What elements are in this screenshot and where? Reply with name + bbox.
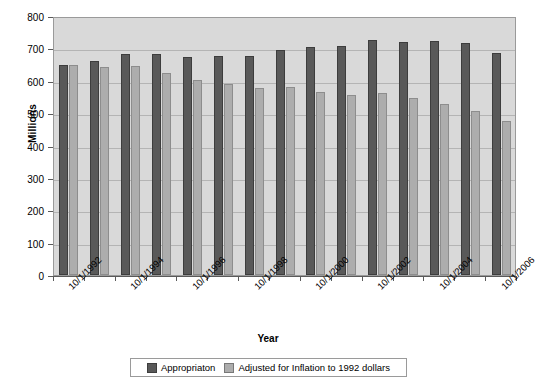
y-axis-tick-label: 800 xyxy=(27,12,44,23)
bar-series-container xyxy=(54,18,515,275)
bar xyxy=(152,54,161,275)
y-axis-tick-label: 400 xyxy=(27,141,44,152)
legend-swatch-icon xyxy=(224,363,234,373)
bar xyxy=(337,46,346,275)
x-axis-tick-mark xyxy=(485,276,486,281)
y-axis-tick-label: 0 xyxy=(38,271,44,282)
bar xyxy=(316,92,325,275)
y-axis-tick-label: 300 xyxy=(27,173,44,184)
bar-chart: Millions 0100200300400500600700800 10/1/… xyxy=(0,0,536,384)
bar xyxy=(461,43,470,275)
bar xyxy=(276,50,285,275)
bar xyxy=(90,61,99,275)
bar xyxy=(245,56,254,275)
plot-area xyxy=(53,17,516,276)
bar xyxy=(121,54,130,275)
legend-label: Adjusted for Inflation to 1992 dollars xyxy=(238,362,390,373)
x-axis-tick-mark xyxy=(300,276,301,281)
bar xyxy=(183,57,192,275)
bar xyxy=(347,95,356,275)
bar xyxy=(368,40,377,275)
x-axis-tick-mark xyxy=(53,276,54,281)
x-axis-tick-mark xyxy=(238,276,239,281)
bar xyxy=(131,66,140,275)
bar xyxy=(306,47,315,275)
y-axis-tick-label: 600 xyxy=(27,76,44,87)
bar xyxy=(224,84,233,275)
x-axis-tick-mark xyxy=(176,276,177,281)
y-axis-tick-labels: 0100200300400500600700800 xyxy=(0,0,53,384)
x-axis-title: Year xyxy=(0,333,536,344)
legend-entry: Appropriaton xyxy=(147,362,215,373)
x-axis-tick-mark xyxy=(362,276,363,281)
legend-swatch-icon xyxy=(147,363,157,373)
legend-label: Appropriaton xyxy=(161,362,215,373)
y-axis-tick-label: 500 xyxy=(27,109,44,120)
bar xyxy=(59,65,68,275)
y-axis-tick-label: 700 xyxy=(27,44,44,55)
y-axis-tick-label: 100 xyxy=(27,238,44,249)
bar xyxy=(409,98,418,275)
bar xyxy=(100,67,109,275)
legend-entry: Adjusted for Inflation to 1992 dollars xyxy=(224,362,390,373)
bar xyxy=(162,73,171,275)
bar xyxy=(69,65,78,275)
bar xyxy=(471,111,480,275)
bar xyxy=(492,53,501,275)
bar xyxy=(440,104,449,275)
bar xyxy=(286,87,295,275)
bar xyxy=(502,121,511,275)
bar xyxy=(399,42,408,275)
x-axis-tick-mark xyxy=(423,276,424,281)
bar xyxy=(430,41,439,275)
y-axis-tick-label: 200 xyxy=(27,206,44,217)
bar xyxy=(193,80,202,275)
bar xyxy=(378,93,387,275)
bar xyxy=(255,88,264,275)
x-axis-tick-mark xyxy=(115,276,116,281)
chart-legend: AppropriatonAdjusted for Inflation to 19… xyxy=(130,358,407,377)
bar xyxy=(214,56,223,275)
